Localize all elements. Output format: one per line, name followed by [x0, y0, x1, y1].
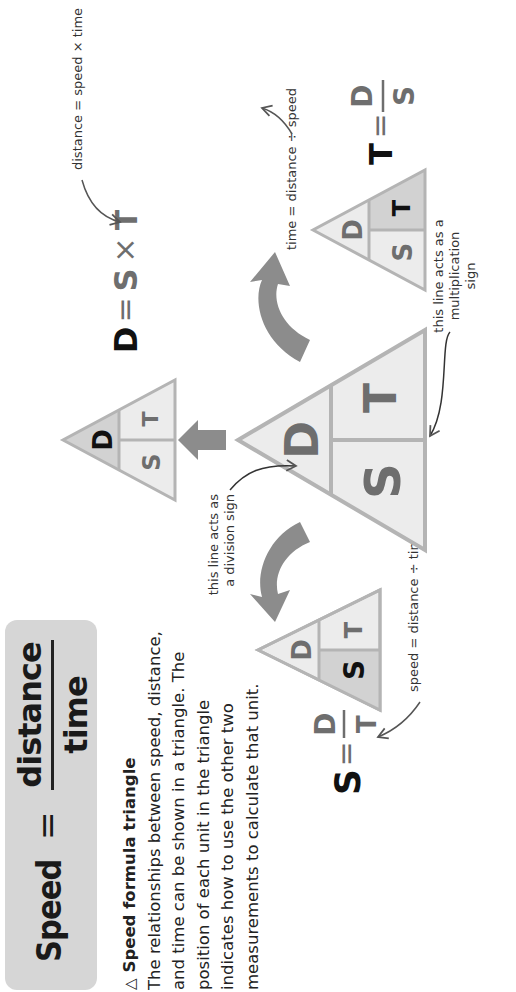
- formula-triangles-diagram: D S T S = D T speed = distance ÷ time D …: [0, 0, 516, 992]
- central-tri-t: T: [355, 383, 406, 413]
- speed-rule-arrow: [378, 702, 420, 737]
- time-formula-num: D: [346, 84, 379, 107]
- distance-rule-label: distance = speed × time: [70, 8, 85, 170]
- speed-tri-t: T: [340, 621, 368, 638]
- central-tri-d: D: [275, 421, 329, 459]
- time-tri-d: D: [338, 219, 368, 241]
- multiplication-annotation-line2: multiplication: [447, 232, 462, 321]
- time-rule-label: time = distance ÷ speed: [284, 88, 299, 250]
- central-triangle: D S T: [238, 330, 425, 550]
- division-annotation-line2: a division sign: [222, 494, 237, 587]
- time-triangle: D S T: [313, 170, 425, 290]
- distance-tri-t: T: [138, 411, 163, 426]
- speed-tri-s: S: [338, 660, 371, 680]
- speed-rule-label: speed = distance ÷ time: [406, 530, 421, 692]
- speed-formula-eq: =: [328, 741, 363, 766]
- time-tri-s: S: [388, 243, 418, 262]
- multiplication-annotation-line1: this line acts as a: [431, 219, 446, 332]
- distance-triangle: D S T: [63, 380, 175, 500]
- time-formula-den: S: [388, 86, 421, 106]
- time-tri-t: T: [388, 199, 416, 216]
- distance-tri-s: S: [138, 453, 166, 470]
- distance-formula-s: S: [107, 268, 145, 291]
- distance-formula: D = S × T: [107, 209, 145, 353]
- multiplication-annotation-line3: sign: [463, 263, 478, 290]
- time-formula-eq: =: [362, 113, 397, 138]
- speed-tri-d: D: [287, 639, 317, 661]
- speed-formula-den: T: [352, 715, 382, 733]
- distance-formula-eq: =: [107, 297, 142, 322]
- central-tri-s: S: [354, 463, 412, 499]
- straight-arrow-to-distance: [178, 420, 226, 460]
- division-annotation-line1: this line acts as: [206, 494, 221, 596]
- diagram-canvas: Speed = distance time △Speed formula tri…: [0, 0, 516, 992]
- time-formula-lhs: T: [362, 143, 400, 165]
- speed-formula: S = D T: [309, 710, 382, 795]
- multiplication-arrow: [430, 332, 450, 436]
- curved-arrow-to-time: [250, 252, 310, 362]
- time-formula: T = D S: [346, 80, 421, 165]
- speed-formula-num: D: [309, 712, 342, 735]
- distance-tri-d: D: [88, 429, 118, 451]
- curved-arrow-to-speed: [250, 522, 310, 622]
- distance-formula-op: ×: [107, 237, 142, 262]
- speed-formula-lhs: S: [327, 769, 368, 795]
- distance-formula-lhs: D: [107, 327, 145, 354]
